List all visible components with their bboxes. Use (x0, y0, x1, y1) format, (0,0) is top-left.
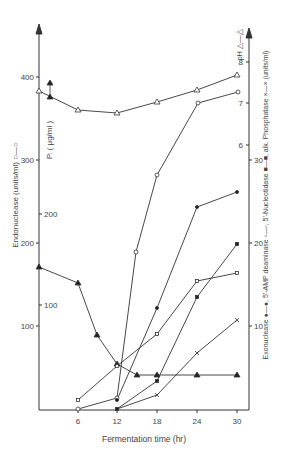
x-tick-label: 24 (193, 417, 202, 426)
x-tick-label: 12 (113, 417, 122, 426)
right-axis-arrow (246, 28, 252, 38)
right-inner-axis-title: Exonuclease ●—●, 5'-AMP deaminase ▫—▫, 5… (262, 51, 270, 360)
left-inner-axis-title: Pᵢ ( μg/ml ) (45, 121, 54, 160)
left-inner-tick-label: 100 (44, 301, 58, 310)
series-alk-phosphatase (117, 320, 237, 409)
left-inner-tick-label: 200 (44, 210, 58, 219)
endonuclease-markers (76, 90, 240, 411)
left-outer-tick-label: 300 (21, 156, 35, 165)
ph-markers (36, 72, 240, 115)
left-outer-tick-label: 100 (21, 322, 35, 331)
x-tick-label: 30 (233, 417, 242, 426)
axes (36, 24, 252, 413)
x-axis-title: Fermentation time (hr) (102, 434, 186, 444)
tick-labels: 6 12 18 24 30 400 300 200 100 200 100 8 … (21, 58, 264, 426)
right-outer-axis-title: pH △—△ (235, 28, 244, 60)
series-5-nucleotidase (117, 244, 237, 409)
markers (36, 72, 240, 411)
left-outer-axis-title: Endonuclease (units/ml) ○—○ (11, 142, 20, 248)
series-exonuclease (117, 192, 237, 400)
left-outer-tick-label: 400 (21, 73, 35, 82)
right-outer-tick-label: 6 (239, 141, 244, 150)
exonuclease-markers (115, 190, 238, 401)
series-lines (39, 75, 238, 409)
series-endonuclease (78, 92, 238, 409)
pi-axis-indicator-icon (47, 80, 53, 99)
x-tick-label: 18 (153, 417, 162, 426)
fermentation-chart: 6 12 18 24 30 400 300 200 100 200 100 8 … (0, 0, 287, 456)
phosphatase-markers (155, 318, 239, 397)
x-tick-label: 6 (76, 417, 81, 426)
left-outer-tick-label: 200 (21, 239, 35, 248)
series-ph (39, 75, 237, 113)
left-axis-arrow (36, 24, 42, 34)
right-outer-tick-label: 7 (239, 99, 244, 108)
